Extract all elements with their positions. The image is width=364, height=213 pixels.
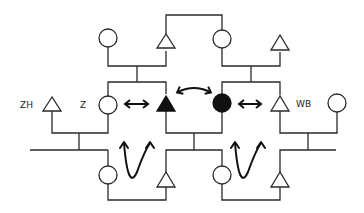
label-zh: ZH: [20, 100, 33, 110]
filled-circle-symbol: [213, 94, 231, 112]
top-left-triangle-symbol: [157, 34, 175, 48]
bottom-right-circle-symbol: [213, 166, 231, 184]
bottom-left-circle-symbol: [99, 166, 117, 184]
top-right-triangle-symbol: [271, 35, 289, 50]
label-wb: WB: [296, 99, 311, 109]
bottom-left-triangle-symbol: [157, 172, 175, 187]
top-left-circle-symbol: [99, 29, 117, 47]
top-right-circle-symbol: [213, 30, 231, 48]
label-z: Z: [80, 100, 86, 110]
bottom-connectors: [30, 150, 336, 200]
filled-triangle-symbol: [157, 96, 175, 111]
zh-triangle-symbol: [43, 97, 61, 111]
pedigree-diagram: ZH Z WB: [0, 0, 364, 213]
bottom-right-triangle-symbol: [271, 172, 289, 187]
curved-double-arrow-filled-pair: [178, 88, 210, 92]
z-circle-symbol: [99, 96, 117, 114]
wb-triangle-symbol: [271, 96, 289, 111]
right-circle-symbol: [328, 94, 346, 112]
u-arrow-left-head-2: [146, 142, 154, 148]
top-connectors: [108, 15, 280, 96]
u-arrow-right-head-2: [257, 142, 265, 148]
middle-connectors: [52, 110, 337, 150]
